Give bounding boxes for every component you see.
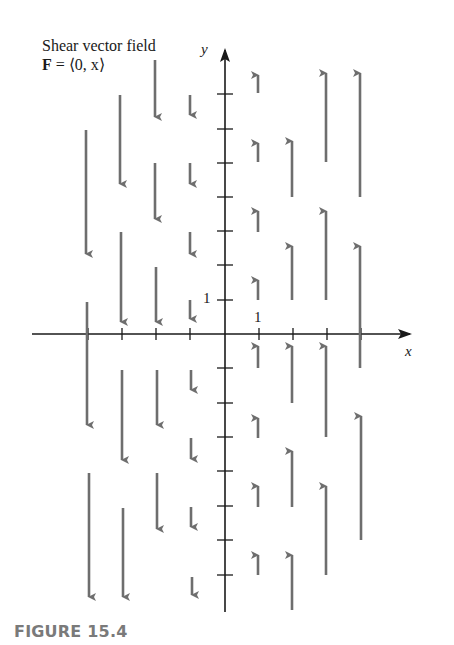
vector-arrows xyxy=(86,60,361,610)
x-axis-label: x xyxy=(405,343,412,360)
field-definition: = ⟨0, x⟩ xyxy=(52,56,105,73)
figure-title: Shear vector field xyxy=(42,37,156,55)
field-formula: F = ⟨0, x⟩ xyxy=(42,56,105,74)
y-axis-label: y xyxy=(201,41,208,58)
field-symbol: F xyxy=(42,56,52,73)
figure-caption: FIGURE 15.4 xyxy=(14,622,128,641)
x-tick-label-1: 1 xyxy=(254,309,262,326)
y-tick-label-1: 1 xyxy=(203,290,211,307)
vector-field-plot xyxy=(0,0,454,645)
